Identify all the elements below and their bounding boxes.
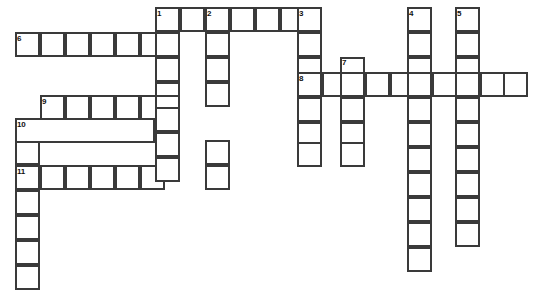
crossword-cell[interactable] <box>40 95 65 120</box>
crossword-cell[interactable] <box>407 122 432 147</box>
crossword-cell[interactable] <box>15 140 40 165</box>
crossword-cell[interactable] <box>297 142 322 167</box>
crossword-cell[interactable] <box>407 197 432 222</box>
crossword-cell[interactable] <box>407 147 432 172</box>
crossword-cell[interactable] <box>15 165 40 190</box>
crossword-cell[interactable] <box>90 32 115 57</box>
crossword-cell[interactable] <box>455 122 480 147</box>
crossword-cell[interactable] <box>205 32 230 57</box>
crossword-cell[interactable] <box>205 7 230 32</box>
crossword-cell[interactable] <box>115 95 140 120</box>
crossword-cell[interactable] <box>15 32 40 57</box>
crossword-cell[interactable] <box>407 97 432 122</box>
crossword-cell[interactable] <box>65 95 90 120</box>
crossword-cell[interactable] <box>455 32 480 57</box>
crossword-cell[interactable] <box>155 132 180 157</box>
crossword-cell[interactable] <box>407 7 432 32</box>
crossword-cell[interactable] <box>40 165 65 190</box>
crossword-cell[interactable] <box>455 197 480 222</box>
crossword-cell-band[interactable] <box>15 118 155 143</box>
crossword-cell[interactable] <box>155 107 180 132</box>
crossword-cell[interactable] <box>115 32 140 57</box>
crossword-cell[interactable] <box>155 57 180 82</box>
crossword-cell[interactable] <box>455 172 480 197</box>
crossword-cell[interactable] <box>455 7 480 32</box>
crossword-cell[interactable] <box>297 72 322 97</box>
crossword-cell[interactable] <box>15 240 40 265</box>
crossword-cell[interactable] <box>297 7 322 32</box>
crossword-cell[interactable] <box>455 147 480 172</box>
crossword-cell[interactable] <box>205 165 230 190</box>
crossword-cell[interactable] <box>407 222 432 247</box>
crossword-cell[interactable] <box>65 32 90 57</box>
crossword-cell[interactable] <box>205 82 230 107</box>
crossword-cell[interactable] <box>455 97 480 122</box>
crossword-cell[interactable] <box>340 72 365 97</box>
crossword-cell[interactable] <box>40 32 65 57</box>
crossword-cell[interactable] <box>230 7 255 32</box>
crossword-cell[interactable] <box>503 72 528 97</box>
crossword-cell[interactable] <box>205 57 230 82</box>
crossword-cell[interactable] <box>15 190 40 215</box>
crossword-cell[interactable] <box>180 7 205 32</box>
crossword-cell[interactable] <box>115 165 140 190</box>
crossword-cell[interactable] <box>432 72 457 97</box>
crossword-cell[interactable] <box>205 140 230 165</box>
crossword-cell[interactable] <box>407 172 432 197</box>
crossword-cell[interactable] <box>455 222 480 247</box>
crossword-cell[interactable] <box>15 265 40 290</box>
crossword-cell[interactable] <box>340 97 365 122</box>
crossword-cell[interactable] <box>407 32 432 57</box>
crossword-cell[interactable] <box>155 7 180 32</box>
crossword-cell[interactable] <box>407 247 432 272</box>
crossword-cell[interactable] <box>297 97 322 122</box>
crossword-cell[interactable] <box>480 72 505 97</box>
crossword-cell[interactable] <box>340 142 365 167</box>
crossword-cell[interactable] <box>255 7 280 32</box>
crossword-cell[interactable] <box>155 32 180 57</box>
crossword-cell[interactable] <box>455 72 480 97</box>
crossword-cell[interactable] <box>15 215 40 240</box>
crossword-cell[interactable] <box>407 72 432 97</box>
crossword-cell[interactable] <box>65 165 90 190</box>
crossword-grid: 1234567891011 <box>0 0 533 294</box>
crossword-cell[interactable] <box>297 32 322 57</box>
crossword-cell[interactable] <box>90 165 115 190</box>
crossword-cell[interactable] <box>365 72 390 97</box>
crossword-cell[interactable] <box>155 157 180 182</box>
crossword-cell[interactable] <box>90 95 115 120</box>
